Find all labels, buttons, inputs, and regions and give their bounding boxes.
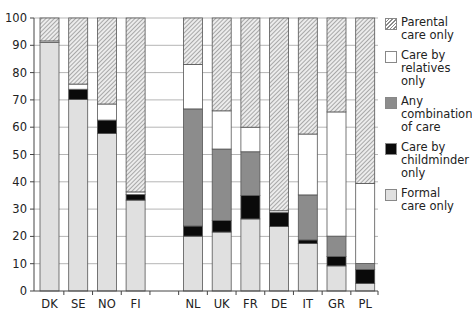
legend-label: Formal care only: [401, 187, 463, 213]
bar-it: [298, 18, 317, 291]
segment-childminder: [327, 257, 346, 266]
segment-childminder: [212, 221, 231, 232]
legend: Parental care only Care by relatives onl…: [385, 16, 463, 220]
segment-parental: [97, 18, 116, 104]
bar-dk: [40, 18, 59, 291]
y-axis: 0102030405060708090100: [5, 11, 34, 298]
legend-item-formal: Formal care only: [385, 187, 463, 213]
legend-item-parental: Parental care only: [385, 16, 463, 42]
segment-parental: [40, 18, 59, 41]
legend-label: Parental care only: [401, 16, 463, 42]
y-tick-label: 20: [12, 229, 27, 243]
bar-pl: [356, 18, 375, 291]
legend-label: Care by childminder only: [401, 141, 469, 180]
segment-parental: [69, 18, 88, 84]
x-tick-label: FI: [131, 297, 141, 311]
bar-uk: [212, 18, 231, 291]
segment-formal: [69, 99, 88, 291]
bar-de: [270, 18, 289, 291]
segment-formal: [184, 236, 203, 291]
segment-childminder: [241, 195, 260, 218]
grey-swatch-icon: [385, 97, 397, 109]
legend-item-relatives: Care by relatives only: [385, 49, 463, 88]
x-tick-label: GR: [328, 297, 345, 311]
y-tick-label: 10: [12, 257, 27, 271]
x-tick-label: DE: [271, 297, 287, 311]
x-tick-label: SE: [71, 297, 86, 311]
bar-fr: [241, 18, 260, 291]
x-tick-label: NL: [185, 297, 201, 311]
segment-childminder: [69, 89, 88, 99]
segment-parental: [184, 18, 203, 64]
x-tick-label: PL: [359, 297, 373, 311]
legend-item-combination: Any combination of care: [385, 95, 463, 134]
segment-relatives: [356, 183, 375, 263]
segment-childminder: [298, 240, 317, 244]
bar-se: [69, 18, 88, 291]
segment-relatives: [298, 134, 317, 195]
segment-childminder: [356, 269, 375, 283]
segment-formal: [126, 200, 145, 291]
segment-childminder: [97, 120, 116, 133]
light-grey-swatch-icon: [385, 189, 397, 201]
segment-formal: [327, 266, 346, 291]
segment-parental: [241, 18, 260, 127]
segment-combination: [298, 195, 317, 240]
segment-formal: [298, 243, 317, 291]
bar-nl: [184, 18, 203, 291]
black-swatch-icon: [385, 143, 397, 155]
segment-formal: [270, 227, 289, 291]
segment-parental: [298, 18, 317, 134]
segment-childminder: [126, 195, 145, 200]
segment-combination: [327, 236, 346, 256]
y-tick-label: 100: [5, 11, 27, 25]
x-tick-label: UK: [214, 297, 230, 311]
y-tick-label: 50: [12, 148, 27, 162]
segment-parental: [356, 18, 375, 183]
y-tick-label: 30: [12, 202, 27, 216]
x-tick-label: NO: [98, 297, 116, 311]
bar-no: [97, 18, 116, 291]
segment-parental: [270, 18, 289, 211]
segment-combination: [212, 149, 231, 221]
white-swatch-icon: [385, 51, 397, 63]
legend-item-childminder: Care by childminder only: [385, 141, 463, 180]
segment-formal: [212, 232, 231, 291]
bar-fi: [126, 18, 145, 291]
segment-relatives: [97, 104, 116, 120]
x-tick-label: FR: [243, 297, 258, 311]
segment-childminder: [270, 213, 289, 227]
segment-parental: [327, 18, 346, 112]
y-tick-label: 40: [12, 175, 27, 189]
segment-relatives: [69, 84, 88, 89]
x-tick-label: DK: [41, 297, 58, 311]
y-tick-label: 80: [12, 66, 27, 80]
legend-label: Any combination of care: [401, 95, 472, 134]
segment-relatives: [241, 127, 260, 152]
y-tick-label: 90: [12, 38, 27, 52]
segment-parental: [126, 18, 145, 192]
segment-relatives: [327, 112, 346, 236]
segment-relatives: [126, 192, 145, 195]
segment-childminder: [184, 226, 203, 236]
y-tick-label: 60: [12, 120, 27, 134]
segment-relatives: [184, 64, 203, 108]
legend-label: Care by relatives only: [401, 49, 463, 88]
segment-formal: [40, 43, 59, 291]
segment-combination: [241, 152, 260, 196]
bar-gr: [327, 18, 346, 291]
x-tick-label: IT: [303, 297, 314, 311]
segment-formal: [241, 219, 260, 291]
x-axis: DKSENOFINLUKFRDEITGRPL: [34, 291, 378, 311]
segment-combination: [356, 263, 375, 269]
segment-formal: [97, 133, 116, 291]
segment-relatives: [212, 111, 231, 149]
segment-formal: [356, 283, 375, 291]
y-tick-label: 0: [20, 284, 27, 298]
y-tick-label: 70: [12, 93, 27, 107]
segment-combination: [184, 109, 203, 226]
hatched-swatch-icon: [385, 18, 397, 30]
segment-parental: [212, 18, 231, 111]
